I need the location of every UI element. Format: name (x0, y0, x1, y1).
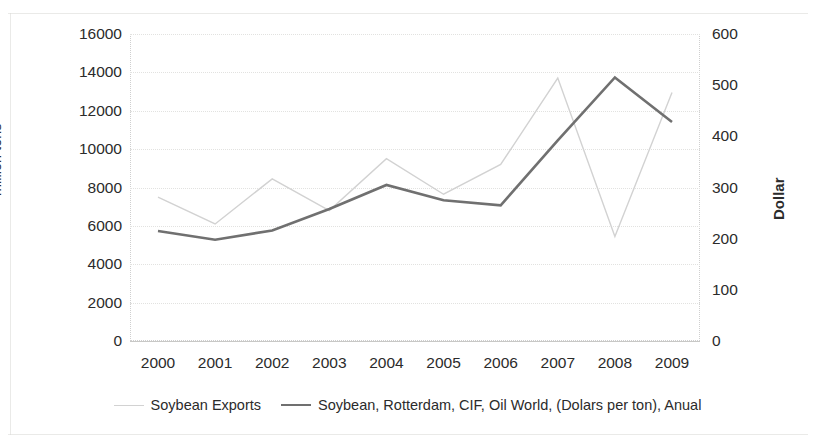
y-axis-right-tick-0: 0 (712, 333, 721, 349)
y-axis-left-tick-6000: 6000 (88, 218, 122, 234)
x-axis-tick-2008: 2008 (598, 355, 632, 371)
series-line-0 (158, 78, 672, 236)
chart-legend: Soybean ExportsSoybean, Rotterdam, CIF, … (0, 398, 815, 413)
y-axis-left-tick-0: 0 (113, 333, 122, 349)
plot-area (130, 34, 700, 341)
series-lines (130, 34, 700, 341)
legend-label: Soybean Exports (151, 398, 261, 413)
scan-artifact-bottom (8, 434, 808, 435)
legend-label: Soybean, Rotterdam, CIF, Oil World, (Dol… (318, 398, 701, 413)
legend-item-1[interactable]: Soybean, Rotterdam, CIF, Oil World, (Dol… (281, 398, 701, 413)
y-axis-left-tick-14000: 14000 (79, 64, 122, 80)
y-axis-right-tick-100: 100 (712, 282, 738, 298)
x-axis-tick-2001: 2001 (198, 355, 232, 371)
legend-item-0[interactable]: Soybean Exports (114, 398, 261, 413)
x-axis-tick-2004: 2004 (369, 355, 403, 371)
y-axis-left-title: million tons (0, 123, 4, 196)
x-axis-tick-2009: 2009 (655, 355, 689, 371)
legend-line-swatch-icon (281, 404, 311, 406)
x-axis-tick-2005: 2005 (426, 355, 460, 371)
scan-artifact-top (8, 13, 808, 14)
y-axis-left-tick-4000: 4000 (88, 256, 122, 272)
scan-artifact-left (10, 13, 11, 435)
y-axis-left-tick-10000: 10000 (79, 141, 122, 157)
x-axis-tick-2003: 2003 (312, 355, 346, 371)
y-axis-left-tick-16000: 16000 (79, 26, 122, 42)
y-axis-right-tick-400: 400 (712, 128, 738, 144)
y-axis-right-tick-500: 500 (712, 77, 738, 93)
y-axis-right-title: Dollar (770, 177, 787, 220)
series-line-1 (158, 77, 672, 239)
y-axis-right-tick-600: 600 (712, 26, 738, 42)
y-axis-left-tick-2000: 2000 (88, 295, 122, 311)
y-axis-right: 6005004003002001000 (712, 0, 764, 447)
y-axis-left: 1600014000120001000080006000400020000 (52, 0, 122, 447)
x-axis-tick-2000: 2000 (141, 355, 175, 371)
y-axis-left-tick-12000: 12000 (79, 103, 122, 119)
x-axis-tick-2007: 2007 (541, 355, 575, 371)
chart-figure: 1600014000120001000080006000400020000 60… (0, 0, 815, 447)
legend-line-swatch-icon (114, 405, 144, 406)
x-axis-tick-2006: 2006 (483, 355, 517, 371)
x-axis-tick-2002: 2002 (255, 355, 289, 371)
y-axis-right-tick-200: 200 (712, 231, 738, 247)
axis-baseline (130, 341, 700, 342)
y-axis-left-tick-8000: 8000 (88, 180, 122, 196)
y-axis-right-tick-300: 300 (712, 180, 738, 196)
